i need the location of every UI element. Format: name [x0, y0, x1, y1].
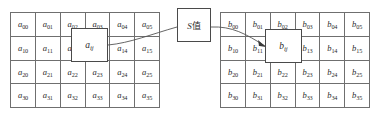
- matrix-a-cell-14: a14: [110, 37, 135, 61]
- matrix-b-cell-35: b35: [345, 84, 370, 108]
- cell-label: a32: [68, 91, 78, 100]
- matrix-a-cell-01: a01: [36, 13, 61, 37]
- cell-label: a31: [43, 91, 53, 100]
- matrix-a-cell-35: a35: [135, 84, 160, 108]
- cell-label: b05: [352, 20, 362, 29]
- matrix-a-cell-23: a23: [86, 61, 111, 85]
- matrix-b-cell-34: b34: [320, 84, 345, 108]
- matrix-a-cell-05: a05: [135, 13, 160, 37]
- matrix-a-cell-11: a11: [36, 37, 61, 61]
- cell-label: b34: [327, 91, 337, 100]
- matrix-b-cell-22: b22: [271, 61, 296, 85]
- cell-label: a34: [117, 91, 127, 100]
- cell-label: b01: [253, 20, 263, 29]
- matrix-b-cell-04: b04: [320, 13, 345, 37]
- matrix-a-cell-34: a34: [110, 84, 135, 108]
- matrix-b-cell-20: b20: [221, 61, 246, 85]
- matrix-b-cell-05: b05: [345, 13, 370, 37]
- matrix-b-cell-14: b14: [320, 37, 345, 61]
- matrix-a-cell-25: a25: [135, 61, 160, 85]
- matrix-a-cell-00: a00: [11, 13, 36, 37]
- matrix-b-cell-31: b31: [246, 84, 271, 108]
- cell-label: b00: [228, 20, 238, 29]
- popout-element-bij: bij: [265, 29, 302, 63]
- matrix-b-cell-25: b25: [345, 61, 370, 85]
- cell-label: a10: [18, 44, 28, 53]
- cell-label: b24: [327, 68, 337, 77]
- matrix-a-cell-33: a33: [86, 84, 111, 108]
- matrix-b-cell-24: b24: [320, 61, 345, 85]
- cell-label: a05: [142, 20, 152, 29]
- matrix-b-cell-10: b10: [221, 37, 246, 61]
- cell-label: a33: [92, 91, 102, 100]
- matrix-a-cell-31: a31: [36, 84, 61, 108]
- cell-label: b20: [228, 68, 238, 77]
- cell-label: b31: [253, 91, 263, 100]
- cell-label: a11: [43, 44, 53, 53]
- matrix-a-cell-21: a21: [36, 61, 61, 85]
- popout-bij-label: bij: [279, 41, 288, 51]
- matrix-b-cell-00: b00: [221, 13, 246, 37]
- cell-label: a04: [117, 20, 127, 29]
- cell-label: a01: [43, 20, 53, 29]
- operator-box-s-value: S值: [177, 8, 211, 42]
- cell-label: a20: [18, 68, 28, 77]
- cell-label: b25: [352, 68, 362, 77]
- cell-label: a15: [142, 44, 152, 53]
- matrix-a-cell-30: a30: [11, 84, 36, 108]
- cell-label: a22: [68, 68, 78, 77]
- operator-box-label: S值: [187, 19, 201, 32]
- cell-label: b10: [228, 44, 238, 53]
- cell-label: a35: [142, 91, 152, 100]
- cell-label: b13: [302, 44, 312, 53]
- cell-label: a25: [142, 68, 152, 77]
- matrix-a-cell-15: a15: [135, 37, 160, 61]
- matrix-a-cell-24: a24: [110, 61, 135, 85]
- cell-label: b04: [327, 20, 337, 29]
- matrix-b-cell-30: b30: [221, 84, 246, 108]
- matrix-a-cell-22: a22: [61, 61, 86, 85]
- matrix-a-cell-32: a32: [61, 84, 86, 108]
- matrix-b-cell-15: b15: [345, 37, 370, 61]
- cell-label: b03: [302, 20, 312, 29]
- popout-element-aij: aij: [71, 28, 108, 62]
- cell-label: a21: [43, 68, 53, 77]
- cell-label: a30: [18, 91, 28, 100]
- cell-label: b15: [352, 44, 362, 53]
- matrix-b-cell-33: b33: [296, 84, 321, 108]
- cell-label: b14: [327, 44, 337, 53]
- matrix-a-cell-04: a04: [110, 13, 135, 37]
- cell-label: b32: [278, 91, 288, 100]
- cell-label: b23: [302, 68, 312, 77]
- matrix-b-cell-32: b32: [271, 84, 296, 108]
- matrix-b-cell-23: b23: [296, 61, 321, 85]
- cell-label: a23: [92, 68, 102, 77]
- matrix-a-cell-20: a20: [11, 61, 36, 85]
- matrix-b-cell-21: b21: [246, 61, 271, 85]
- popout-aij-label: aij: [85, 40, 94, 50]
- cell-label: a00: [18, 20, 28, 29]
- matrix-a-cell-10: a10: [11, 37, 36, 61]
- cell-label: b11: [253, 44, 263, 53]
- cell-label: b30: [228, 91, 238, 100]
- cell-label: a14: [117, 44, 127, 53]
- cell-label: b02: [278, 20, 288, 29]
- diagram-canvas: a00 a01 a02 a03 a04 a05 a10 a11 a12 a13 …: [0, 0, 380, 118]
- cell-label: b21: [253, 68, 263, 77]
- cell-label: b35: [352, 91, 362, 100]
- cell-label: b22: [278, 68, 288, 77]
- cell-label: a24: [117, 68, 127, 77]
- cell-label: b33: [302, 91, 312, 100]
